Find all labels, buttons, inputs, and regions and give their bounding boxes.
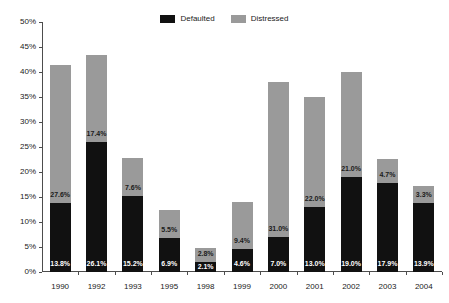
y-axis-tick-mark [39,122,42,123]
x-axis-tick-mark [224,272,225,275]
bar-group: 19.0%21.0% [341,22,362,272]
y-axis-tick-mark [39,247,42,248]
x-axis-tick-mark [369,272,370,275]
x-axis-tick-mark [260,272,261,275]
y-axis-line [42,22,43,272]
bar-segment-distressed: 7.6% [122,158,143,196]
bar-value-label: 13.8% [50,260,71,268]
x-axis-label: 2000 [258,282,298,291]
x-axis-tick-mark [442,272,443,275]
y-axis-tick-label: 5% [2,242,42,252]
bar-group: 4.6%9.4% [232,22,253,272]
bar-value-label: 7.0% [268,260,289,268]
bar-value-label: 17.4% [86,130,107,138]
x-axis-label: 1990 [40,282,80,291]
x-axis-label: 1999 [222,282,262,291]
y-axis-tick-label: 45% [2,42,42,52]
plot-area: 0%5%10%15%20%25%30%35%40%45%50% 13.8%27.… [42,22,442,272]
bar-segment-distressed: 17.4% [86,55,107,142]
bar-segment-defaulted: 6.9% [159,238,180,273]
bar-value-label: 2.1% [195,263,216,271]
bar-group: 13.0%22.0% [304,22,325,272]
x-axis-label: 1993 [113,282,153,291]
bar-group: 15.2%7.6% [122,22,143,272]
y-axis-tick-mark [39,222,42,223]
bar-segment-defaulted: 7.0% [268,237,289,272]
bar-value-label: 4.6% [232,260,253,268]
bar-segment-defaulted: 13.0% [304,207,325,272]
y-axis-tick-label: 0% [2,267,42,277]
x-axis-label: 2004 [404,282,444,291]
bar-segment-distressed: 22.0% [304,97,325,207]
y-axis-tick-mark [39,147,42,148]
bar-segment-distressed: 27.6% [50,65,71,203]
y-axis-tick-label: 40% [2,67,42,77]
bar-value-label: 26.1% [86,260,107,268]
x-axis-label: 1995 [149,282,189,291]
y-axis-tick-label: 30% [2,117,42,127]
bar-group: 7.0%31.0% [268,22,289,272]
bar-value-label: 4.7% [377,171,398,179]
bar-segment-defaulted: 4.6% [232,249,253,272]
y-axis-tick-label: 35% [2,92,42,102]
x-axis-label: 2003 [367,282,407,291]
bar-value-label: 7.6% [122,184,143,192]
x-axis-tick-mark [406,272,407,275]
y-axis-tick-mark [39,97,42,98]
y-axis-tick-mark [39,72,42,73]
bar-value-label: 13.9% [413,260,434,268]
y-axis-tick-mark [39,272,42,273]
chart-container: DefaultedDistressed 0%5%10%15%20%25%30%3… [0,0,449,303]
x-axis-label: 1998 [186,282,226,291]
y-axis-tick-mark [39,22,42,23]
x-axis-label: 2001 [295,282,335,291]
bar-group: 17.9%4.7% [377,22,398,272]
bar-segment-defaulted: 2.1% [195,262,216,273]
bar-segment-distressed: 9.4% [232,202,253,249]
y-axis-tick-label: 50% [2,17,42,27]
x-axis-label: 2002 [331,282,371,291]
x-axis-tick-mark [297,272,298,275]
bar-value-label: 5.5% [159,226,180,234]
y-axis-tick-mark [39,197,42,198]
y-axis-tick-label: 25% [2,142,42,152]
bar-value-label: 22.0% [304,195,325,203]
bar-group: 13.9%3.3% [413,22,434,272]
bar-value-label: 15.2% [122,260,143,268]
bar-value-label: 13.0% [304,260,325,268]
bar-group: 13.8%27.6% [50,22,71,272]
bar-value-label: 9.4% [232,237,253,245]
bar-value-label: 2.8% [195,250,216,258]
bar-segment-defaulted: 26.1% [86,142,107,273]
bar-group: 2.1%2.8% [195,22,216,272]
y-axis-tick-mark [39,172,42,173]
bar-value-label: 3.3% [413,191,434,199]
bar-segment-defaulted: 13.9% [413,203,434,273]
bar-value-label: 21.0% [341,165,362,173]
bar-segment-defaulted: 15.2% [122,196,143,272]
bar-segment-distressed: 2.8% [195,248,216,262]
bar-segment-distressed: 21.0% [341,72,362,177]
bar-value-label: 19.0% [341,260,362,268]
x-axis-tick-mark [187,272,188,275]
x-axis-tick-mark [151,272,152,275]
bar-value-label: 6.9% [159,260,180,268]
bar-value-label: 31.0% [268,225,289,233]
bar-segment-defaulted: 19.0% [341,177,362,272]
x-axis-tick-mark [333,272,334,275]
bar-group: 6.9%5.5% [159,22,180,272]
x-axis-tick-mark [78,272,79,275]
y-axis-tick-label: 20% [2,167,42,177]
bar-group: 26.1%17.4% [86,22,107,272]
y-axis-tick-label: 15% [2,192,42,202]
bar-segment-distressed: 31.0% [268,82,289,237]
x-axis-tick-mark [115,272,116,275]
bar-segment-defaulted: 13.8% [50,203,71,272]
bar-value-label: 27.6% [50,191,71,199]
x-axis-label: 1992 [77,282,117,291]
y-axis-tick-mark [39,47,42,48]
bar-value-label: 17.9% [377,260,398,268]
bar-segment-distressed: 4.7% [377,159,398,183]
y-axis-tick-label: 10% [2,217,42,227]
bar-segment-distressed: 5.5% [159,210,180,238]
